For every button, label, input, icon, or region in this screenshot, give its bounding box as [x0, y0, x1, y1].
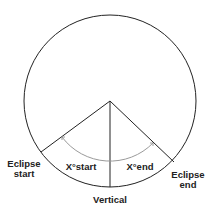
eclipse-end-line	[110, 101, 174, 162]
x-start-label: X°start	[63, 162, 99, 172]
eclipse-start-line	[41, 101, 110, 152]
eclipse-end-label: Eclipse end	[168, 170, 208, 190]
eclipse-start-label: Eclipse start	[4, 159, 44, 179]
eclipse-end-label-line2: end	[168, 180, 208, 190]
x-end-label: X°end	[124, 162, 156, 172]
angle-arc	[62, 137, 153, 161]
eclipse-start-label-line2: start	[4, 169, 44, 179]
vertical-label: Vertical	[88, 195, 132, 205]
